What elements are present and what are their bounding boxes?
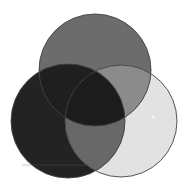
venn-diagram: [0, 0, 185, 192]
artifact-dot: [151, 115, 154, 118]
